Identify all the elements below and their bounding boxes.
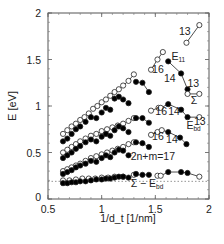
filled-circle-marker [88, 158, 93, 163]
filled-circle-marker [140, 115, 145, 120]
annotation-subscript: 11 [178, 56, 185, 63]
annotation-label: 16 [155, 105, 167, 117]
filled-circle-marker [121, 97, 126, 102]
open-circle-marker [121, 83, 126, 88]
open-circle-marker [95, 103, 100, 108]
y-tick-label: 2 [35, 7, 41, 19]
filled-circle-marker [184, 142, 189, 147]
filled-circle-marker [166, 59, 171, 64]
filled-circle-marker [99, 110, 104, 115]
filled-circle-marker [146, 89, 151, 94]
annotations: 13E11161413Σ161413Ebd16142n+m=17Σ − Ebd [131, 25, 206, 190]
open-circle-marker [131, 72, 136, 77]
open-circle-marker [94, 154, 99, 159]
open-circle-marker [184, 40, 189, 45]
filled-circle-marker [83, 179, 88, 184]
axes: 0.511.5200.511.52 [26, 7, 212, 215]
filled-circle-marker [94, 159, 99, 164]
filled-circle-marker [177, 135, 182, 140]
open-circle-marker [103, 97, 108, 102]
x-tick-label: 2 [206, 203, 212, 215]
filled-circle-marker [65, 136, 70, 141]
filled-circle-marker [185, 170, 190, 175]
filled-circle-marker [108, 107, 113, 112]
chart: 0.511.5200.511.52 13E11161413Σ161413Ebd1… [0, 0, 224, 244]
annotation-label: 14 [166, 133, 178, 145]
annotation-label: Σ [191, 94, 198, 106]
filled-circle-marker [88, 178, 93, 183]
x-axis-label: 1/d_t [1/nm] [100, 212, 156, 224]
filled-circle-marker [94, 139, 99, 144]
filled-circle-marker [108, 155, 113, 160]
filled-circle-marker [94, 115, 99, 120]
y-tick-label: 1.5 [26, 54, 41, 66]
y-axis-label: E [eV] [6, 91, 18, 121]
filled-circle-marker [146, 144, 151, 149]
y-tick-label: 0.5 [26, 147, 41, 159]
annotation-label: 14 [164, 72, 176, 84]
y-tick-label: 0 [35, 191, 41, 203]
filled-circle-marker [78, 179, 83, 184]
filled-circle-marker [121, 126, 126, 131]
annotation-label: 14 [168, 105, 180, 117]
open-circle-marker [155, 57, 160, 62]
annotation-label: 16 [152, 130, 164, 142]
filled-circle-marker [78, 124, 83, 129]
filled-circle-marker [112, 128, 117, 133]
open-circle-marker [126, 118, 131, 123]
filled-circle-marker [94, 177, 99, 182]
filled-circle-marker [178, 169, 183, 174]
open-circle-marker [126, 78, 131, 83]
filled-circle-marker [133, 140, 138, 145]
annotation-subscript: bd [156, 183, 164, 190]
open-circle-marker [185, 91, 190, 96]
annotation-label: 13 [188, 77, 200, 89]
filled-circle-marker [83, 119, 88, 124]
filled-circle-marker [121, 174, 126, 179]
filled-circle-marker [88, 137, 93, 142]
filled-circle-marker [133, 79, 138, 84]
open-circle-marker [126, 142, 131, 147]
filled-circle-marker [83, 140, 88, 145]
open-circle-marker [160, 49, 165, 54]
filled-circle-marker [146, 120, 151, 125]
filled-circle-marker [83, 161, 88, 166]
filled-circle-marker [121, 148, 126, 153]
x-tick-label: 0.5 [41, 203, 56, 215]
annotation-subscript: bd [193, 125, 201, 132]
open-circle-marker [116, 87, 121, 92]
filled-circle-marker [133, 115, 138, 120]
open-circle-marker [197, 91, 202, 96]
filled-circle-marker [69, 131, 74, 136]
annotation-label: Σ − Ebd [131, 177, 164, 190]
open-circle-marker [60, 131, 65, 136]
filled-circle-marker [88, 115, 93, 120]
filled-circle-marker [140, 80, 145, 85]
annotation-label: 2n+m=17 [131, 150, 176, 162]
filled-circle-marker [178, 71, 183, 76]
open-circle-marker [197, 174, 202, 179]
filled-circle-marker [133, 171, 138, 176]
y-tick-label: 1 [35, 100, 41, 112]
filled-circle-marker [78, 163, 83, 168]
annotation-label: E11 [171, 50, 185, 63]
filled-circle-marker [140, 141, 145, 146]
annotation-label: 13 [179, 25, 191, 37]
annotation-label: 16 [152, 63, 164, 75]
open-circle-marker [65, 128, 70, 133]
filled-circle-marker [69, 150, 74, 155]
filled-circle-marker [126, 129, 131, 134]
open-circle-marker [197, 22, 202, 27]
filled-circle-marker [166, 169, 171, 174]
open-circle-marker [148, 108, 153, 113]
filled-circle-marker [126, 101, 131, 106]
open-circle-marker [94, 131, 99, 136]
filled-circle-marker [78, 143, 83, 148]
filled-circle-marker [108, 133, 113, 138]
open-circle-marker [158, 173, 163, 178]
